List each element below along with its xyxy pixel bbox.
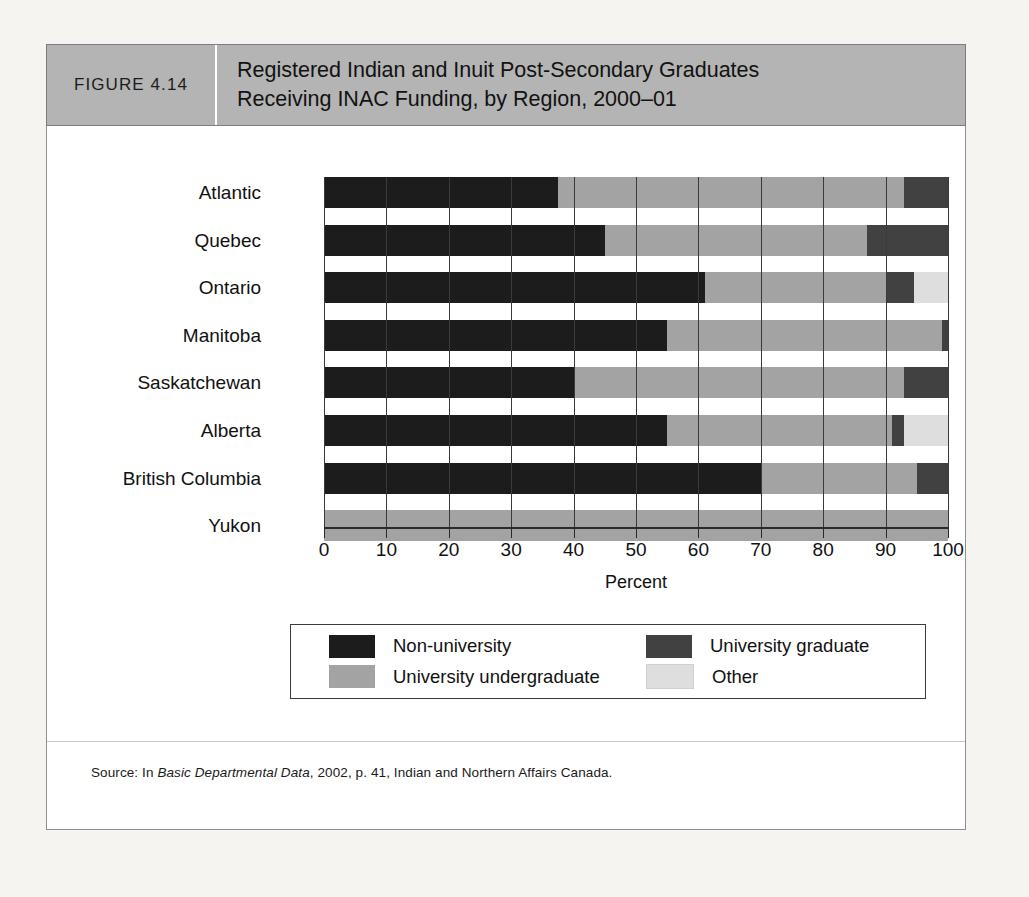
- x-axis-tick-label: 60: [668, 539, 728, 561]
- bar-track: [324, 272, 948, 303]
- category-label: Ontario: [47, 272, 277, 303]
- category-label: Manitoba: [47, 320, 277, 351]
- x-axis-tick-label: 30: [481, 539, 541, 561]
- legend-label: Other: [712, 666, 758, 688]
- bar-segment: [605, 225, 867, 256]
- x-axis-tick: [324, 527, 325, 538]
- x-axis-tick-label: 80: [793, 539, 853, 561]
- category-label: British Columbia: [47, 463, 277, 494]
- bar-row: Saskatchewan: [47, 367, 965, 398]
- chart-legend: Non-universityUniversity graduateUnivers…: [290, 624, 926, 699]
- figure-title-line-1: Registered Indian and Inuit Post-Seconda…: [237, 56, 965, 85]
- legend-swatch: [329, 635, 375, 658]
- bar-track: [324, 415, 948, 446]
- x-axis-tick: [698, 527, 699, 538]
- bar-segment: [904, 367, 948, 398]
- x-axis-tick-label: 20: [419, 539, 479, 561]
- bar-segment: [942, 320, 948, 351]
- bar-segment: [705, 272, 886, 303]
- bar-track: [324, 225, 948, 256]
- bar-segment: [324, 415, 667, 446]
- figure-frame: FIGURE 4.14 Registered Indian and Inuit …: [46, 44, 966, 830]
- bar-segment: [324, 320, 667, 351]
- x-axis-tick: [761, 527, 762, 538]
- legend-swatch: [646, 664, 694, 689]
- source-publication-title: Basic Departmental Data: [157, 765, 309, 780]
- category-label: Alberta: [47, 415, 277, 446]
- stacked-bar-chart: AtlanticQuebecOntarioManitobaSaskatchewa…: [47, 177, 965, 527]
- category-label: Atlantic: [47, 177, 277, 208]
- category-label: Yukon: [47, 510, 277, 541]
- bar-segment: [892, 415, 904, 446]
- bar-track: [324, 177, 948, 208]
- bar-track: [324, 320, 948, 351]
- legend-swatch: [646, 635, 692, 658]
- bar-row: British Columbia: [47, 463, 965, 494]
- bar-segment: [558, 177, 904, 208]
- bar-segment: [904, 177, 948, 208]
- x-axis-tick: [386, 527, 387, 538]
- figure-number-label: FIGURE 4.14: [47, 45, 217, 125]
- source-prefix: Source: In: [91, 765, 157, 780]
- source-suffix: , 2002, p. 41, Indian and Northern Affai…: [310, 765, 613, 780]
- bar-row: Alberta: [47, 415, 965, 446]
- bar-row: Yukon: [47, 510, 965, 541]
- bar-segment: [667, 415, 892, 446]
- bar-segment: [324, 367, 574, 398]
- bar-segment: [917, 463, 948, 494]
- bar-track: [324, 367, 948, 398]
- x-axis-tick-label: 10: [356, 539, 416, 561]
- x-axis-tick: [449, 527, 450, 538]
- bar-segment: [914, 272, 948, 303]
- bar-segment: [324, 272, 705, 303]
- x-axis-tick-label: 100: [918, 539, 978, 561]
- x-axis-title: Percent: [324, 572, 948, 593]
- x-axis-tick-label: 70: [731, 539, 791, 561]
- figure-title: Registered Indian and Inuit Post-Seconda…: [217, 45, 965, 125]
- x-axis-tick: [574, 527, 575, 538]
- x-axis-tick: [823, 527, 824, 538]
- legend-swatch: [329, 665, 375, 688]
- legend-label: Non-university: [393, 635, 511, 657]
- bar-segment: [574, 367, 905, 398]
- figure-header-band: FIGURE 4.14 Registered Indian and Inuit …: [46, 44, 966, 126]
- x-axis-tick-label: 50: [606, 539, 666, 561]
- category-label: Saskatchewan: [47, 367, 277, 398]
- x-axis-tick-label: 0: [294, 539, 354, 561]
- legend-item: University graduate: [608, 635, 925, 658]
- x-axis-tick: [886, 527, 887, 538]
- legend-label: University undergraduate: [393, 666, 600, 688]
- bar-segment: [904, 415, 948, 446]
- bar-row: Atlantic: [47, 177, 965, 208]
- bar-segment: [324, 177, 558, 208]
- x-axis-tick: [511, 527, 512, 538]
- bar-segment: [667, 320, 942, 351]
- source-divider: [47, 741, 965, 742]
- legend-item: Other: [608, 664, 925, 689]
- figure-title-line-2: Receiving INAC Funding, by Region, 2000–…: [237, 85, 965, 114]
- bar-segment: [886, 272, 914, 303]
- bar-row: Manitoba: [47, 320, 965, 351]
- legend-item: Non-university: [291, 635, 608, 658]
- bar-segment: [867, 225, 948, 256]
- category-label: Quebec: [47, 225, 277, 256]
- bar-track: [324, 463, 948, 494]
- source-note: Source: In Basic Departmental Data, 2002…: [91, 765, 612, 780]
- bar-row: Ontario: [47, 272, 965, 303]
- bar-row: Quebec: [47, 225, 965, 256]
- x-axis-tick: [636, 527, 637, 538]
- legend-item: University undergraduate: [291, 665, 608, 688]
- x-axis-tick-label: 40: [544, 539, 604, 561]
- x-axis-tick: [948, 527, 949, 538]
- bar-segment: [324, 463, 761, 494]
- bar-segment: [324, 225, 605, 256]
- legend-label: University graduate: [710, 635, 869, 657]
- x-axis-tick-label: 90: [856, 539, 916, 561]
- bar-segment: [761, 463, 917, 494]
- plot-area: AtlanticQuebecOntarioManitobaSaskatchewa…: [47, 127, 965, 829]
